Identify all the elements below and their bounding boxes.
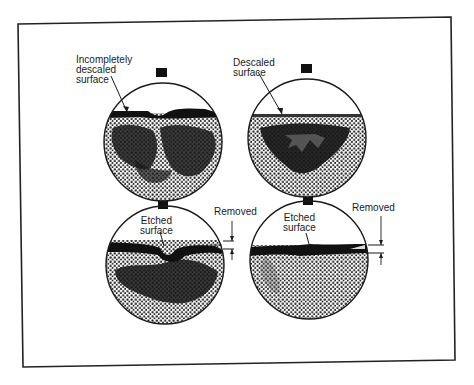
- specimen-descaled: [245, 64, 370, 205]
- specimen-etched-clean: [250, 201, 384, 325]
- diagram: Incompletely descaled surface Descaled s…: [0, 0, 474, 385]
- label-descaled-surface: Descaled surface: [233, 58, 275, 78]
- removed-dimension-3: [223, 221, 234, 260]
- label-removed-left: Removed: [214, 207, 257, 217]
- label-incompletely-descaled-surface: Incompletely descaled surface: [76, 55, 132, 85]
- label-etched-surface-right: Etched surface: [283, 213, 316, 233]
- specimen-incompletely-descaled: [100, 68, 230, 213]
- label-etched-surface-left: Etched surface: [140, 216, 173, 236]
- removed-dimension-4: [368, 216, 384, 265]
- label-removed-right: Removed: [352, 203, 395, 213]
